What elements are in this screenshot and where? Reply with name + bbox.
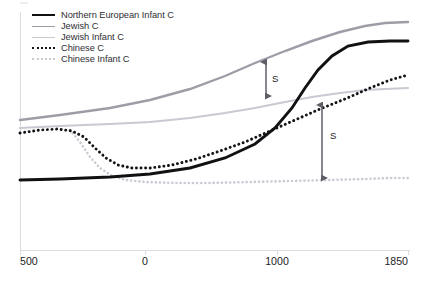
x-tick-label-0: 0: [142, 255, 148, 268]
line-sample-icon: [32, 32, 55, 43]
line-sample-icon: [32, 10, 55, 21]
x-tick-label-500: 500: [20, 255, 38, 268]
legend-item-label: Jewish C: [61, 21, 98, 32]
legend: Northern European Infant C Jewish C Jewi…: [32, 10, 174, 65]
chart-figure: Northern European Infant C Jewish C Jewi…: [0, 0, 425, 285]
legend-item-label: Chinese C: [61, 43, 104, 54]
legend-item-chinese-c: Chinese C: [32, 43, 174, 54]
legend-item-label: Northern European Infant C: [61, 10, 174, 21]
legend-item-northern-european-infant-c: Northern European Infant C: [32, 10, 174, 21]
x-tick-label-1850: 1850: [384, 255, 408, 268]
series-chinese-c: [20, 75, 408, 168]
line-sample-icon: [32, 21, 55, 32]
s-annotation-label-upper: S: [272, 73, 278, 84]
line-sample-icon: [32, 54, 55, 65]
series-jewish-infant-c: [20, 88, 408, 128]
line-sample-icon: [32, 43, 55, 54]
legend-item-label: Jewish Infant C: [61, 32, 124, 43]
x-tick-label-1000: 1000: [265, 255, 289, 268]
legend-item-chinese-infant-c: Chinese Infant C: [32, 54, 174, 65]
legend-item-jewish-infant-c: Jewish Infant C: [32, 32, 174, 43]
legend-item-label: Chinese Infant C: [61, 54, 129, 65]
s-annotation-label-lower: S: [330, 130, 336, 141]
legend-item-jewish-c: Jewish C: [32, 21, 174, 32]
